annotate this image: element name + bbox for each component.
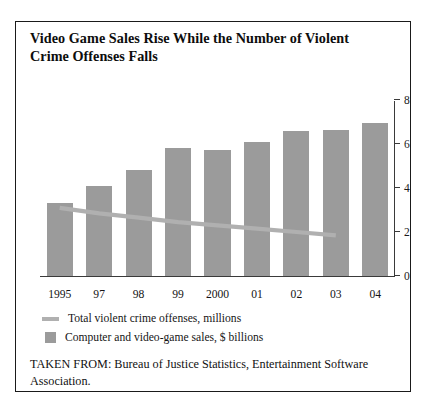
legend-label-violent-crime: Total violent crime offenses, millions [68,312,241,325]
legend-label-game-sales: Computer and video-game sales, $ billion… [65,331,263,344]
y-axis-tick-label: 0 [404,271,420,283]
x-axis-tick-label: 1995 [40,288,79,301]
legend-item-violent-crime: Total violent crime offenses, millions [42,310,372,327]
square-swatch-icon [45,332,56,343]
legend-item-game-sales: Computer and video-game sales, $ billion… [42,329,372,346]
chart-title: Video Game Sales Rise While the Number o… [30,30,380,65]
x-axis-tick-label: 2000 [198,288,237,301]
line-swatch-icon [42,317,59,321]
y-axis-tick-label: 2 [404,227,420,239]
x-axis-tick-label: 99 [158,288,197,301]
y-axis-tick-label: 4 [404,183,420,195]
x-axis-tick-label: 02 [277,288,316,301]
x-axis-tick-label: 98 [119,288,158,301]
violent-crime-line [60,208,336,236]
y-axis-tick-label: 8 [404,95,420,107]
x-axis-tick-label: 03 [316,288,355,301]
x-axis-tick-label: 97 [79,288,118,301]
chart-legend: Total violent crime offenses, millions C… [42,310,372,348]
figure-frame: Video Game Sales Rise While the Number o… [15,21,411,392]
line-series-layer [40,100,395,276]
plot-area: 02468 1995979899200001020304 [28,79,400,282]
x-axis-tick-label: 04 [356,288,395,301]
x-axis-tick-label: 01 [237,288,276,301]
x-axis-labels: 1995979899200001020304 [40,285,395,301]
source-note: TAKEN FROM: Bureau of Justice Statistics… [30,356,398,389]
y-axis-tick-label: 6 [404,139,420,151]
